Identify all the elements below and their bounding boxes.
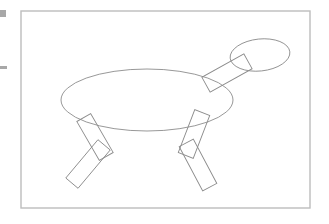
margin-marker-square-icon xyxy=(0,10,6,17)
hind-right-upper-leg[interactable] xyxy=(178,110,209,159)
neck-rectangle[interactable] xyxy=(202,54,252,92)
vector-scene[interactable] xyxy=(0,0,329,224)
drawing-canvas xyxy=(0,0,329,224)
quadruped-figure[interactable] xyxy=(61,36,292,191)
margin-marker-dash-icon xyxy=(0,66,7,69)
head-ellipse[interactable] xyxy=(228,36,291,74)
front-left-lower-leg[interactable] xyxy=(66,140,110,189)
